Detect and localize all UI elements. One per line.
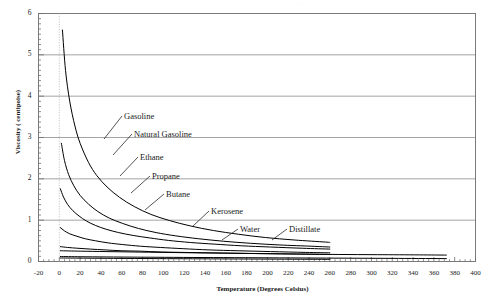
series-label-ethane: Ethane xyxy=(140,152,164,162)
series-label-butane: Butane xyxy=(166,189,190,199)
series-label-kerosene: Kerosene xyxy=(211,206,243,216)
chart-figure: . . Viscosity ( centipoise) Temperature … xyxy=(0,0,488,306)
y-tick-label-4: 4 xyxy=(18,91,32,100)
leader-line-butane xyxy=(145,194,164,210)
y-tick-label-0: 0 xyxy=(18,256,32,265)
leader-line-kerosene xyxy=(193,211,209,226)
series-label-water: Water xyxy=(240,224,260,234)
plot-canvas xyxy=(0,0,488,306)
leader-line-ethane xyxy=(120,157,138,176)
series-label-distillate: Distillate xyxy=(289,224,320,234)
y-tick-label-5: 5 xyxy=(18,49,32,58)
leader-line-gasoline xyxy=(104,116,122,139)
y-tick-label-2: 2 xyxy=(18,173,32,182)
series-label-gasoline: Gasoline xyxy=(124,111,154,121)
series-label-natural-gasoline: Natural Gasoline xyxy=(134,129,192,139)
y-tick-label-1: 1 xyxy=(18,215,32,224)
y-tick-label-3: 3 xyxy=(18,132,32,141)
x-tick-label-400: 400 xyxy=(463,269,488,277)
y-tick-label-6: 6 xyxy=(18,8,32,17)
curve-gasoline xyxy=(62,30,329,242)
series-label-propane: Propane xyxy=(152,171,180,181)
leader-line-water xyxy=(222,229,238,240)
